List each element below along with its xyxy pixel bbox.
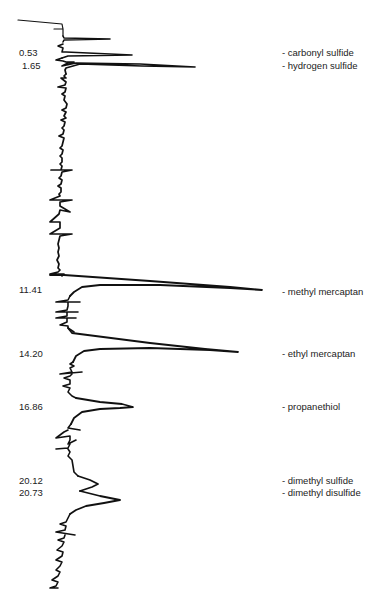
peak-dimethyl-disulfide bbox=[70, 491, 120, 514]
compound-label-hydrogen-sulfide: - hydrogen sulfide bbox=[282, 60, 358, 71]
baseline-section-2 bbox=[56, 296, 80, 332]
compound-label-propanethiol: - propanethiol bbox=[282, 401, 340, 412]
compound-label-dimethyl-sulfide: - dimethyl sulfide bbox=[282, 475, 353, 486]
compound-label-ethyl-mercaptan: - ethyl mercaptan bbox=[282, 348, 355, 359]
peak-carbonyl-sulfide bbox=[58, 44, 132, 58]
peak-ethyl-mercaptan bbox=[68, 328, 238, 362]
peak-dimethyl-sulfide bbox=[78, 476, 98, 491]
retention-time-label-hydrogen-sulfide: 1.65 bbox=[22, 60, 41, 71]
baseline-section-5 bbox=[50, 514, 75, 588]
early-spike bbox=[63, 36, 110, 42]
retention-time-label-propanethiol: 16.86 bbox=[19, 401, 43, 412]
baseline-section-4 bbox=[56, 424, 80, 476]
peak-methyl-mercaptan bbox=[50, 275, 262, 296]
compound-label-dimethyl-disulfide: - dimethyl disulfide bbox=[282, 487, 361, 498]
retention-time-label-carbonyl-sulfide: 0.53 bbox=[19, 47, 38, 58]
injection-baseline bbox=[18, 20, 63, 36]
retention-time-label-dimethyl-sulfide: 20.12 bbox=[19, 475, 43, 486]
retention-time-label-ethyl-mercaptan: 14.20 bbox=[19, 348, 43, 359]
chromatogram-trace bbox=[0, 0, 382, 603]
retention-time-label-dimethyl-disulfide: 20.73 bbox=[19, 487, 43, 498]
peak-hydrogen-sulfide bbox=[56, 58, 195, 74]
compound-label-methyl-mercaptan: - methyl mercaptan bbox=[282, 286, 363, 297]
baseline-section-3 bbox=[60, 362, 82, 398]
baseline-section-1 bbox=[50, 74, 72, 276]
retention-time-label-methyl-mercaptan: 11.41 bbox=[19, 284, 42, 295]
peak-propanethiol bbox=[71, 398, 133, 424]
compound-label-carbonyl-sulfide: - carbonyl sulfide bbox=[282, 47, 354, 58]
